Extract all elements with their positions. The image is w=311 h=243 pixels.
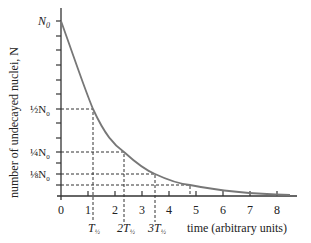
decay-curve <box>61 21 290 195</box>
label-half-n0: ½N0 <box>30 103 50 118</box>
x-tick-labels: 0 1 2 3 4 5 6 7 8 <box>58 203 280 217</box>
svg-text:5: 5 <box>193 203 199 217</box>
decay-diagram: N0 ½N0 ¼N0 ⅛N0 number of undecayed nucle… <box>0 0 311 243</box>
label-eighth-n0: ⅛N0 <box>30 168 50 183</box>
x-axis-title: time (arbitrary units) <box>187 221 287 235</box>
label-t-half: T½ <box>88 221 101 236</box>
y-ticks <box>56 21 61 185</box>
svg-text:4: 4 <box>166 203 172 217</box>
svg-text:8: 8 <box>274 203 280 217</box>
label-quarter-n0: ¼N0 <box>30 146 50 161</box>
label-n0: N0 <box>37 14 50 30</box>
svg-text:3: 3 <box>139 203 145 217</box>
svg-text:1: 1 <box>85 203 91 217</box>
y-axis-title: number of undecayed nuclei, N <box>7 47 21 198</box>
svg-text:0: 0 <box>58 203 64 217</box>
label-2t-half: 2T½ <box>117 221 136 236</box>
svg-text:7: 7 <box>247 203 253 217</box>
decay-chart: N0 ½N0 ¼N0 ⅛N0 number of undecayed nucle… <box>0 0 311 243</box>
svg-text:6: 6 <box>220 203 226 217</box>
label-3t-half: 3T½ <box>147 221 167 236</box>
svg-text:2: 2 <box>112 203 118 217</box>
